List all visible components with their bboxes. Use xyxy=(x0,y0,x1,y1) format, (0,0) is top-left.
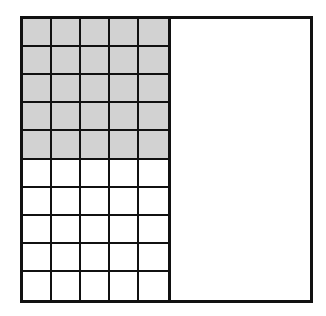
shaded-grid-cell xyxy=(110,131,139,159)
shaded-grid-cell xyxy=(81,103,110,131)
unshaded-grid-cell xyxy=(139,160,168,188)
shaded-grid-cell xyxy=(23,47,52,75)
unshaded-grid-cell xyxy=(139,188,168,216)
shaded-grid-cell xyxy=(110,103,139,131)
shaded-grid-cell xyxy=(23,103,52,131)
shaded-grid-cell xyxy=(110,75,139,103)
shaded-grid-cell xyxy=(52,103,81,131)
shaded-grid-cell xyxy=(23,75,52,103)
unshaded-grid-cell xyxy=(139,272,168,300)
unshaded-grid-cell xyxy=(81,188,110,216)
unshaded-grid-cell xyxy=(52,160,81,188)
shaded-grid-cell xyxy=(139,47,168,75)
unshaded-grid-cell xyxy=(52,188,81,216)
shaded-grid-cell xyxy=(23,19,52,47)
shaded-grid-cell xyxy=(139,131,168,159)
fraction-model-square xyxy=(20,16,313,303)
shaded-grid-cell xyxy=(139,103,168,131)
shaded-grid-cell xyxy=(139,19,168,47)
shaded-grid-cell xyxy=(81,131,110,159)
shaded-grid-cell xyxy=(52,131,81,159)
shaded-grid-cell xyxy=(52,19,81,47)
shaded-grid-cell xyxy=(110,19,139,47)
unshaded-grid-cell xyxy=(52,244,81,272)
shaded-grid-cell xyxy=(81,47,110,75)
unshaded-grid-cell xyxy=(139,244,168,272)
unshaded-grid-cell xyxy=(139,216,168,244)
shaded-grid-cell xyxy=(52,47,81,75)
unshaded-grid-cell xyxy=(52,216,81,244)
unshaded-grid-cell xyxy=(23,216,52,244)
unshaded-grid-cell xyxy=(81,160,110,188)
shaded-grid-cell xyxy=(139,75,168,103)
unshaded-grid-cell xyxy=(110,216,139,244)
left-half-grid xyxy=(23,19,171,300)
shaded-grid-cell xyxy=(81,75,110,103)
shaded-grid-cell xyxy=(52,75,81,103)
unshaded-grid-cell xyxy=(110,272,139,300)
unshaded-grid-cell xyxy=(52,272,81,300)
unshaded-grid-cell xyxy=(23,244,52,272)
unshaded-grid-cell xyxy=(110,160,139,188)
shaded-grid-cell xyxy=(23,131,52,159)
unshaded-grid-cell xyxy=(23,188,52,216)
unshaded-grid-cell xyxy=(23,160,52,188)
right-half-unshaded-region xyxy=(171,19,310,300)
unshaded-grid-cell xyxy=(81,272,110,300)
unshaded-grid-cell xyxy=(110,188,139,216)
unshaded-grid-cell xyxy=(81,244,110,272)
shaded-grid-cell xyxy=(110,47,139,75)
unshaded-grid-cell xyxy=(23,272,52,300)
shaded-grid-cell xyxy=(81,19,110,47)
unshaded-grid-cell xyxy=(81,216,110,244)
unshaded-grid-cell xyxy=(110,244,139,272)
